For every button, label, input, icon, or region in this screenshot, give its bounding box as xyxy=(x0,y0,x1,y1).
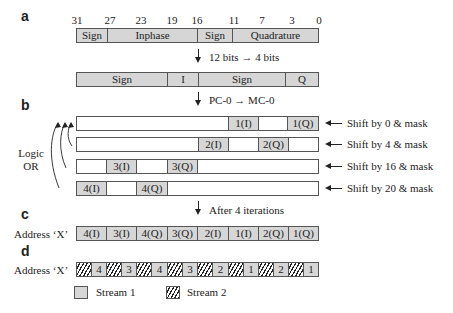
logic-or-label: Logic OR xyxy=(17,147,45,173)
left-arrow-icon xyxy=(330,144,342,145)
stream1-cell: 3 xyxy=(183,263,198,276)
shift-label: Shift by 0 & mask xyxy=(347,117,428,129)
nibble-cell: 4(I) xyxy=(77,182,107,195)
stream2-cell xyxy=(107,263,122,276)
address-label: Address ‘X’ xyxy=(14,228,68,240)
shift-row-4: 2(I) 2(Q) xyxy=(76,137,319,152)
nibble-cell: 1(I) xyxy=(229,227,259,240)
nibble-cell: 3(Q) xyxy=(168,227,198,240)
nibble-cell: 3(I) xyxy=(107,160,137,173)
stream2-cell xyxy=(289,263,304,276)
shift-label: Shift by 16 & mask xyxy=(347,160,433,172)
nibble-cell: 1(Q) xyxy=(289,227,318,240)
nibble-cell: 4(I) xyxy=(77,227,107,240)
empty-cell xyxy=(77,160,107,173)
stream2-cell xyxy=(77,263,92,276)
stream1-cell: 2 xyxy=(274,263,289,276)
nibble-cell: 3(Q) xyxy=(168,160,198,173)
stream1-cell: 4 xyxy=(92,263,107,276)
shift-row-20: 4(I) 4(Q) xyxy=(76,181,319,196)
empty-cell xyxy=(259,117,288,130)
empty-cell xyxy=(289,138,318,151)
nibble-cell: 4(Q) xyxy=(137,182,168,195)
empty-cell xyxy=(137,160,168,173)
left-arrow-icon xyxy=(330,188,342,189)
step-label-iterations: After 4 iterations xyxy=(209,204,284,216)
stream1-cell: 1 xyxy=(304,263,318,276)
left-arrow-icon xyxy=(330,123,342,124)
nibble-cell: 4(Q) xyxy=(137,227,168,240)
empty-cell xyxy=(77,117,229,130)
empty-cell xyxy=(107,182,137,195)
nibble-cell: 1(Q) xyxy=(288,117,318,130)
nibble-cell: 2(Q) xyxy=(259,138,289,151)
empty-cell xyxy=(198,160,318,173)
shift-label: Shift by 4 & mask xyxy=(347,138,428,150)
stream2-cell xyxy=(198,263,213,276)
stream1-cell: 2 xyxy=(213,263,229,276)
address-x-streams: 4 3 4 3 2 1 2 1 xyxy=(76,262,319,277)
legend-label-stream1: Stream 1 xyxy=(96,286,135,298)
shift-row-16: 3(I) 3(Q) xyxy=(76,159,319,174)
nibble-cell: 2(Q) xyxy=(259,227,289,240)
address-label: Address ‘X’ xyxy=(14,264,68,276)
stream2-cell xyxy=(168,263,183,276)
nibble-cell: 3(I) xyxy=(107,227,137,240)
legend-swatch-stream2 xyxy=(166,286,180,299)
address-x-word: 4(I) 3(I) 4(Q) 3(Q) 2(I) 1(I) 2(Q) 1(Q) xyxy=(76,226,319,241)
empty-cell xyxy=(229,138,259,151)
nibble-cell: 2(I) xyxy=(199,138,229,151)
shift-label: Shift by 20 & mask xyxy=(347,182,433,194)
down-arrow xyxy=(198,201,199,211)
logic-or-line2: OR xyxy=(17,160,45,173)
stream2-cell xyxy=(137,263,152,276)
empty-cell xyxy=(77,138,199,151)
stream1-cell: 1 xyxy=(244,263,259,276)
stream2-cell xyxy=(229,263,244,276)
legend-swatch-stream1 xyxy=(74,286,88,299)
stream2-cell xyxy=(259,263,274,276)
nibble-cell: 2(I) xyxy=(198,227,229,240)
logic-or-line1: Logic xyxy=(17,147,45,160)
nibble-cell: 1(I) xyxy=(229,117,259,130)
stream1-cell: 3 xyxy=(122,263,137,276)
empty-cell xyxy=(168,182,318,195)
stream1-cell: 4 xyxy=(152,263,168,276)
left-arrow-icon xyxy=(330,166,342,167)
legend-label-stream2: Stream 2 xyxy=(187,286,226,298)
shift-row-0: 1(I) 1(Q) xyxy=(76,116,319,131)
